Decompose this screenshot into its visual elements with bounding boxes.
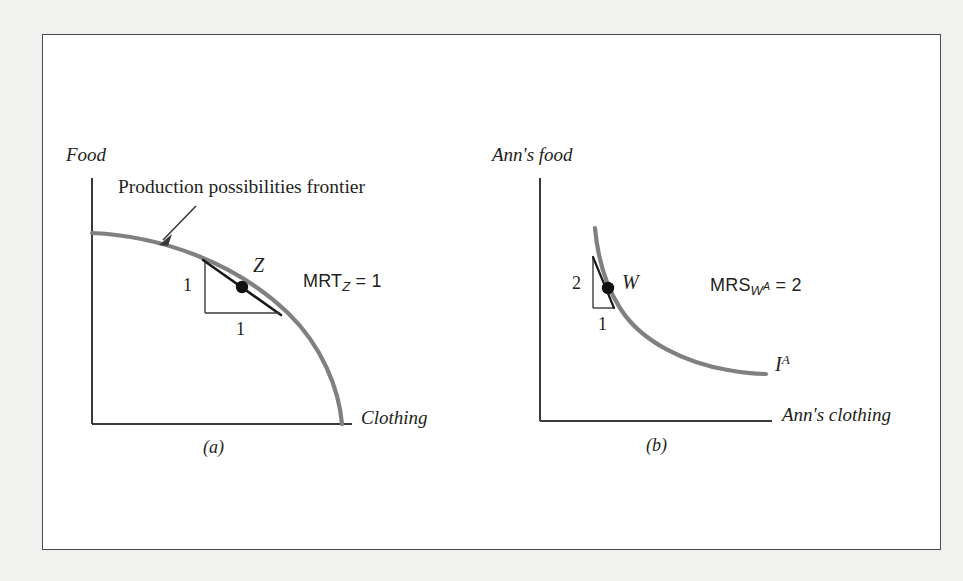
panel-b-x-axis-label: Ann's clothing [782,405,891,424]
panel-a-caption: (a) [203,438,224,456]
panel-a-y-axis-label: Food [66,145,106,164]
panel-a-mrt-equation: MRTZ = 1 [303,272,382,293]
panel-b-caption: (b) [646,436,667,454]
panel-a-rise-label: 1 [183,276,192,294]
panel-b-run-label: 1 [598,315,607,333]
panel-a-run-label: 1 [236,320,245,338]
mrs-prefix: MRS [710,275,751,295]
indifference-curve-label-superscript: A [782,352,790,367]
panel-b-rise-label: 2 [572,274,581,292]
mrs-subscript: WA [751,283,771,298]
mrt-prefix: MRT [303,271,342,291]
panel-b-y-axis-label: Ann's food [492,145,573,164]
panel-b-mrs-equation: MRSWA = 2 [710,276,802,297]
mrs-subscript-base: W [751,283,763,298]
mrs-value: = 2 [770,275,801,295]
mrt-value: = 1 [350,271,381,291]
figure-frame-border [42,34,941,550]
panel-a-x-axis-label: Clothing [361,408,428,427]
indifference-curve-label-base: I [775,353,782,375]
panel-b-point-w-label: W [622,272,639,292]
panel-a-frontier-annotation: Production possibilities frontier [118,177,365,197]
figure-page: Food Production possibilities frontier 1… [0,0,963,581]
panel-a-point-z-label: Z [253,255,264,275]
indifference-curve-label: IA [775,353,790,374]
